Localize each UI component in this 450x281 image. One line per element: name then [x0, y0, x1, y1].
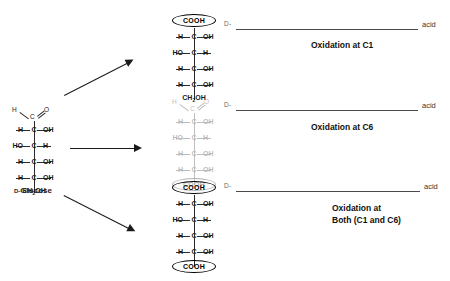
stereocenter-row: H C OH	[146, 161, 242, 177]
stereocenter-row: H C OH	[146, 195, 242, 211]
carbon-label: C	[146, 200, 242, 207]
stereocenter-row: H C OH	[146, 60, 242, 76]
product-name-blank-c1: D- acid	[224, 18, 444, 32]
carbon-label: C	[146, 134, 242, 141]
carbon-label: C	[146, 49, 242, 56]
substituent-right: H	[43, 142, 48, 149]
glucose-aldehyde-group: H C O	[0, 106, 82, 121]
product-bottom-group-text: COOH	[146, 263, 242, 270]
carbon-label: C	[146, 232, 242, 239]
carbon-label: C	[146, 150, 242, 157]
substituent-right: OH	[43, 174, 54, 181]
arrow-to-c1-product	[64, 59, 135, 95]
fill-in-blank[interactable]	[236, 191, 420, 192]
substituent-right: OH	[43, 158, 54, 165]
glucose-name-label: D-Glucose	[14, 186, 52, 195]
name-prefix: D-	[224, 182, 231, 189]
substituent-right: OH	[203, 118, 214, 125]
substituent-right: OH	[203, 33, 214, 40]
name-prefix: D-	[224, 101, 231, 108]
substituent-right: H	[203, 216, 208, 223]
glucose-aldehyde-c: C	[30, 113, 35, 120]
fill-in-blank[interactable]	[236, 110, 418, 111]
stereocenter-row: HO C H	[146, 129, 242, 145]
carbon-label: C	[146, 216, 242, 223]
substituent-right: OH	[203, 166, 214, 173]
substituent-right: OH	[203, 232, 214, 239]
substituent-right: OH	[203, 65, 214, 72]
arrow-to-both-product	[64, 195, 137, 232]
product-aldehyde-h: H	[172, 98, 177, 105]
stereocenter-row: H C OH	[0, 121, 82, 137]
product-aldehyde-c: C	[190, 105, 195, 112]
substituent-right: OH	[43, 126, 54, 133]
caption-oxidation-both: Oxidation at Both (C1 and C6)	[332, 203, 401, 226]
caption-oxidation-c6: Oxidation at C6	[311, 122, 373, 134]
carbon-label: C	[146, 33, 242, 40]
carbon-label: C	[146, 81, 242, 88]
substituent-right: OH	[203, 81, 214, 88]
stereocenter-row: H C OH	[146, 243, 242, 259]
structure-d-glucose: H C O H C OH HO C H	[0, 106, 82, 197]
stereocenter-row: H C OH	[146, 227, 242, 243]
carbon-label: C	[146, 248, 242, 255]
name-suffix: acid	[424, 182, 438, 191]
glucose-aldehyde-h: H	[12, 106, 17, 113]
product-aldehyde-o: O	[204, 98, 209, 105]
stereocenter-row: HO C H	[146, 211, 242, 227]
substituent-right: OH	[203, 248, 214, 255]
name-prefix: D-	[224, 20, 231, 27]
product-bottom-group-circled: COOH	[146, 259, 242, 274]
caption-oxidation-c1: Oxidation at C1	[311, 40, 373, 52]
substituent-right: OH	[203, 200, 214, 207]
glucose-name-text: Glucose	[20, 186, 52, 195]
fill-in-blank[interactable]	[236, 29, 418, 30]
name-suffix: acid	[422, 101, 436, 110]
stereocenter-row: H C OH	[146, 76, 242, 92]
carbon-label: C	[146, 65, 242, 72]
stereocenter-row: HO C H	[0, 137, 82, 153]
stereocenter-row: H C OH	[0, 153, 82, 169]
structure-oxidation-both: COOH H C OH HO C H H C	[146, 180, 242, 274]
stereocenter-row: H C OH	[0, 169, 82, 185]
diagram-canvas: H C O H C OH HO C H	[0, 0, 450, 281]
stereocenter-row: H C OH	[146, 145, 242, 161]
product-name-blank-both: D- acid	[224, 180, 444, 194]
substituent-right: OH	[203, 150, 214, 157]
product-name-blank-c6: D- acid	[224, 99, 444, 113]
carbon-label: C	[146, 166, 242, 173]
glucose-aldehyde-o: O	[44, 106, 49, 113]
substituent-right: H	[203, 49, 208, 56]
carbon-label: C	[146, 118, 242, 125]
name-suffix: acid	[422, 20, 436, 29]
stereocenter-row: H C OH	[146, 113, 242, 129]
stereocenter-row: HO C H	[146, 44, 242, 60]
substituent-right: H	[203, 134, 208, 141]
